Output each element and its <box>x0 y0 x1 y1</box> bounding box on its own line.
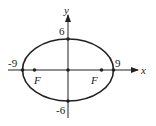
focus-left-point <box>33 68 37 72</box>
y-axis-label: y <box>63 4 69 16</box>
covertex-top-point <box>66 37 70 41</box>
x-axis-label: x <box>140 64 146 76</box>
y-pos-intercept-label: 6 <box>59 25 65 37</box>
x-pos-intercept-label: 9 <box>115 57 121 69</box>
origin-point <box>66 68 70 72</box>
focus-left-label: F <box>33 74 41 86</box>
covertex-bottom-point <box>66 99 70 103</box>
y-neg-intercept-label: -6 <box>56 104 66 116</box>
ellipse-diagram: y x 6 -6 -9 9 F F <box>0 0 156 126</box>
focus-right-label: F <box>90 74 98 86</box>
focus-right-point <box>100 68 104 72</box>
vertex-left-point <box>21 68 25 72</box>
x-neg-intercept-label: -9 <box>8 57 18 69</box>
